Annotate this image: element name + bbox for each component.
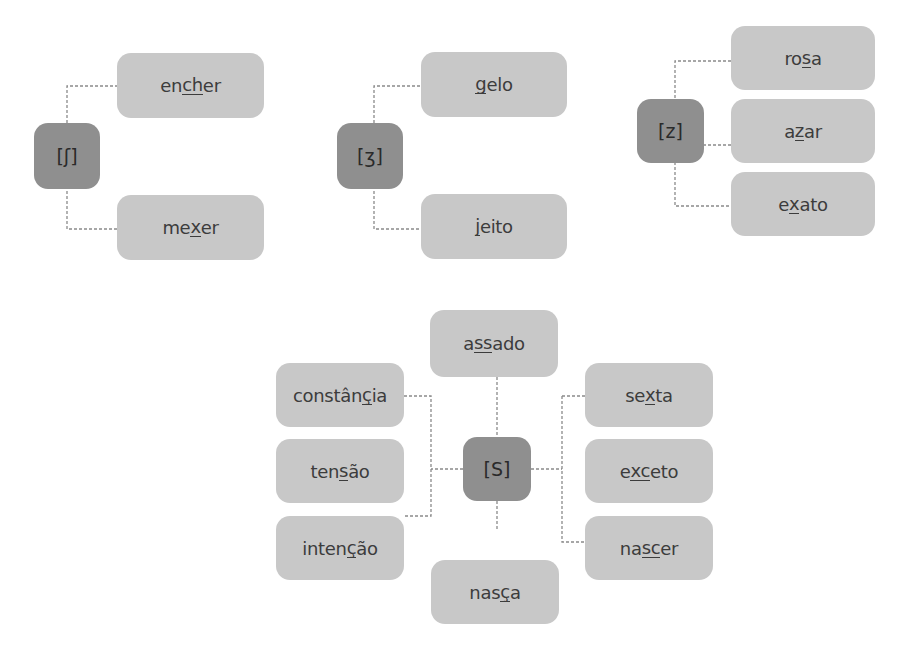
word-box-nasca: nasça [431, 560, 559, 624]
word-box-constancia: constânçia [276, 363, 404, 427]
phoneme-node-s: [S] [463, 437, 531, 501]
word-box-exato: exato [731, 172, 875, 236]
word-box-tensao: tensão [276, 439, 404, 503]
word-box-gelo: gelo [421, 52, 567, 117]
phoneme-node-sh: [ʃ] [34, 123, 100, 189]
word-box-azar: azar [731, 99, 875, 163]
word-box-sexta: sexta [585, 363, 713, 427]
word-box-intencao: intenção [276, 516, 404, 580]
word-box-rosa: rosa [731, 26, 875, 90]
word-box-mexer: mexer [117, 195, 264, 260]
phoneme-node-z: [z] [637, 99, 704, 163]
word-box-encher: encher [117, 53, 264, 118]
phoneme-label: [ʒ] [357, 145, 383, 167]
word-box-nascer: nascer [585, 516, 713, 580]
word-box-exceto: exceto [585, 439, 713, 503]
phoneme-label: [S] [484, 458, 511, 480]
phoneme-label: [z] [658, 120, 683, 142]
phoneme-node-zh: [ʒ] [337, 123, 403, 189]
phoneme-label: [ʃ] [56, 145, 77, 167]
word-box-jeito: jeito [421, 194, 567, 259]
word-box-assado: assado [430, 310, 558, 377]
